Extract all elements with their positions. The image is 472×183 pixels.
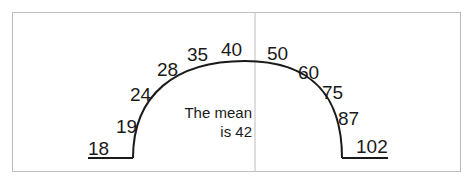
value-label: 75 [322,82,343,103]
value-label: 40 [221,39,242,60]
value-label: 19 [116,116,137,137]
value-label: 28 [157,59,178,80]
mean-annotation-line1: The mean [166,103,252,122]
semicircle-diagram: 18 19 24 28 35 40 50 60 75 87 102 [0,0,472,183]
value-label: 50 [267,43,288,64]
value-label: 87 [338,108,359,129]
value-label: 60 [298,62,319,83]
value-label: 18 [88,138,109,159]
value-label: 35 [187,44,208,65]
value-label: 102 [356,136,388,157]
value-label: 24 [130,84,152,105]
mean-annotation: The mean is 42 [166,103,252,141]
mean-annotation-line2: is 42 [166,122,252,141]
